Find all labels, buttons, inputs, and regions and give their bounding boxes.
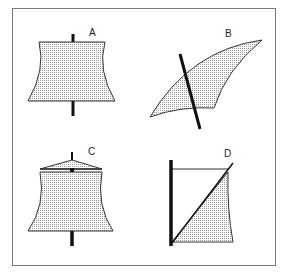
panel-d: D (171, 148, 233, 246)
sail-b (150, 40, 262, 117)
mast-c-knot (70, 168, 74, 172)
label-d: D (224, 148, 231, 159)
label-c: C (88, 146, 95, 157)
label-a: A (89, 27, 96, 38)
panel-b: B (150, 28, 262, 129)
label-b: B (225, 28, 232, 39)
sail-c (28, 172, 113, 231)
panel-c: C (28, 146, 113, 246)
rigging-c (40, 160, 102, 169)
sail-diagram: A B C D (0, 0, 283, 274)
sail-a (28, 42, 115, 101)
panel-a: A (28, 27, 115, 116)
